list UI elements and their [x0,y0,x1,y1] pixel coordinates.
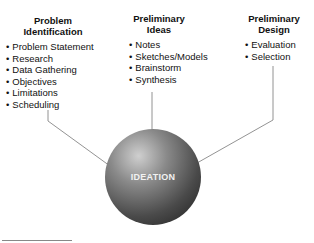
connector-preliminary-design [197,66,273,163]
list-item: Notes [129,39,208,51]
heading-line: Design [245,24,303,35]
list-item: Selection [245,51,303,63]
list-item: Research [6,53,100,65]
list-item: Evaluation [245,39,303,51]
footer-divider [2,240,72,241]
list-item: Synthesis [129,74,208,86]
list-item: Data Gathering [6,64,100,76]
heading-line: Ideas [129,24,189,35]
column-preliminary-ideas: Preliminary Ideas Notes Sketches/Models … [129,13,208,85]
heading-problem-identification: Problem Identification [6,15,100,37]
connector-problem-identification [48,110,110,166]
list-problem-identification: Problem Statement Research Data Gatherin… [6,41,100,111]
column-preliminary-design: Preliminary Design Evaluation Selection [245,13,303,62]
heading-line: Preliminary [245,13,303,24]
heading-line: Identification [6,26,100,37]
list-item: Brainstorm [129,62,208,74]
column-problem-identification: Problem Identification Problem Statement… [6,15,100,111]
heading-preliminary-design: Preliminary Design [245,13,303,35]
list-item: Sketches/Models [129,51,208,63]
ideation-sphere: IDEATION [105,129,201,225]
ideation-label: IDEATION [131,172,176,182]
list-item: Problem Statement [6,41,100,53]
heading-preliminary-ideas: Preliminary Ideas [129,13,189,35]
list-preliminary-design: Evaluation Selection [245,39,303,62]
list-item: Limitations [6,87,100,99]
heading-line: Preliminary [129,13,189,24]
list-item: Objectives [6,76,100,88]
list-item: Scheduling [6,99,100,111]
list-preliminary-ideas: Notes Sketches/Models Brainstorm Synthes… [129,39,208,85]
heading-line: Problem [6,15,100,26]
